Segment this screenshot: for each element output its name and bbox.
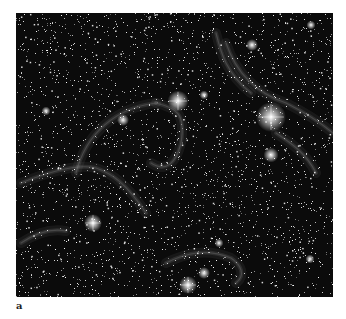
star-field-canvas	[16, 13, 333, 297]
figure-caption-label: a	[16, 300, 22, 311]
nebula-star-field-image	[16, 13, 333, 297]
